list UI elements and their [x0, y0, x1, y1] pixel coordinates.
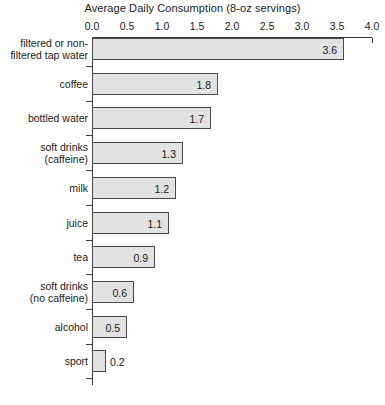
bar: 1.7 [92, 107, 211, 129]
category-label-line: juice [0, 217, 88, 229]
bar-value-label: 0.5 [105, 317, 120, 339]
category-label: tea [0, 251, 88, 263]
bar: 1.1 [92, 212, 169, 234]
bar: 1.3 [92, 142, 183, 164]
bar-row: milk1.2 [0, 177, 385, 199]
bar: 0.6 [92, 281, 134, 303]
bar: 1.8 [92, 73, 218, 95]
category-label-line: milk [0, 182, 88, 194]
bar: 0.9 [92, 246, 155, 268]
x-tick-label: 2.5 [260, 20, 275, 32]
y-tick-mark [86, 274, 92, 275]
chart-title: Average Daily Consumption (8-oz servings… [0, 2, 385, 14]
bar-row: filtered or non-filtered tap water3.6 [0, 38, 385, 60]
category-label: juice [0, 217, 88, 229]
category-label-line: tea [0, 251, 88, 263]
x-tick-label: 3.5 [330, 20, 345, 32]
category-label: soft drinks(caffeine) [0, 141, 88, 165]
x-tick-label: 0.5 [120, 20, 135, 32]
bar-row: juice1.1 [0, 212, 385, 234]
x-tick-label: 2.0 [225, 20, 240, 32]
category-label-line: coffee [0, 78, 88, 90]
y-tick-mark [86, 135, 92, 136]
category-label-line: (no caffeine) [0, 292, 88, 304]
bar-value-label: 0.6 [112, 282, 127, 304]
x-axis-tick-labels: 0.00.51.01.52.02.53.03.54.0 [0, 20, 385, 34]
category-label: bottled water [0, 112, 88, 124]
category-label-line: bottled water [0, 112, 88, 124]
bar-row: bottled water1.7 [0, 107, 385, 129]
bar-row: soft drinks(no caffeine)0.6 [0, 281, 385, 303]
x-tick-label: 3.0 [295, 20, 310, 32]
bar-value-label: 1.7 [189, 108, 204, 130]
category-label-line: soft drinks [0, 280, 88, 292]
bar-value-label: 1.1 [147, 213, 162, 235]
bar: 1.2 [92, 177, 176, 199]
bar: 0.2 [92, 350, 106, 372]
bar-value-label: 1.8 [196, 74, 211, 96]
category-label-line: sport [0, 355, 88, 367]
category-label-line: filtered or non- [0, 37, 88, 49]
bar-row: alcohol0.5 [0, 316, 385, 338]
category-label-line: (caffeine) [0, 153, 88, 165]
bar-chart: Average Daily Consumption (8-oz servings… [0, 0, 385, 405]
bar-row: coffee1.8 [0, 73, 385, 95]
bar-value-label: 0.2 [110, 351, 125, 373]
bar-row: sport0.2 [0, 350, 385, 372]
category-label: coffee [0, 78, 88, 90]
y-tick-mark [86, 170, 92, 171]
bar: 3.6 [92, 38, 344, 60]
y-tick-mark [86, 66, 92, 67]
bar-value-label: 0.9 [133, 247, 148, 269]
y-tick-mark [86, 101, 92, 102]
y-tick-mark [86, 378, 92, 379]
bar-row: soft drinks(caffeine)1.3 [0, 142, 385, 164]
category-label: sport [0, 355, 88, 367]
bar: 0.5 [92, 316, 127, 338]
category-label: alcohol [0, 321, 88, 333]
x-tick-label: 1.0 [155, 20, 170, 32]
bar-value-label: 3.6 [322, 39, 337, 61]
category-label-line: soft drinks [0, 141, 88, 153]
y-tick-mark [86, 205, 92, 206]
x-tick-label: 0.0 [85, 20, 100, 32]
category-label-line: filtered tap water [0, 49, 88, 61]
y-tick-mark [86, 344, 92, 345]
x-tick-label: 4.0 [365, 20, 380, 32]
category-label: filtered or non-filtered tap water [0, 37, 88, 61]
y-tick-mark [86, 240, 92, 241]
x-tick-label: 1.5 [190, 20, 205, 32]
category-label-line: alcohol [0, 321, 88, 333]
bar-value-label: 1.3 [161, 143, 176, 165]
y-tick-mark [86, 309, 92, 310]
bar-value-label: 1.2 [154, 178, 169, 200]
category-label: milk [0, 182, 88, 194]
category-label: soft drinks(no caffeine) [0, 280, 88, 304]
bar-row: tea0.9 [0, 246, 385, 268]
